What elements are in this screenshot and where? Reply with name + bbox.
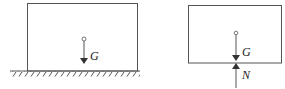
center-of-gravity-dot <box>82 37 86 41</box>
right-figure: G N <box>189 6 282 89</box>
gravity-label: G <box>242 45 251 59</box>
free-body-diagrams: G G N <box>0 0 285 88</box>
normal-force-label: N <box>241 68 251 82</box>
left-figure: G <box>10 4 140 77</box>
center-of-gravity-dot <box>234 31 238 35</box>
ground-hatching <box>10 72 140 77</box>
gravity-label: G <box>90 49 99 63</box>
